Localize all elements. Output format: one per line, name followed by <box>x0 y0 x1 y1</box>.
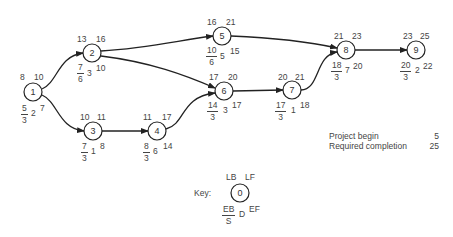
node-1-id: 1 <box>30 87 35 97</box>
node-7-ef: 18 <box>300 101 309 110</box>
node-8-d: 7 <box>345 66 350 75</box>
edge-6-7 <box>233 90 283 91</box>
key-lf: LF <box>245 173 255 182</box>
edge-2-5 <box>101 36 213 51</box>
project-info: Project begin 5 Required completion 25 <box>329 131 439 151</box>
key-title: Key: <box>194 189 211 198</box>
node-5-id: 5 <box>219 31 224 41</box>
node-3-lf: 11 <box>97 113 106 122</box>
node-5-eb-s: 106 <box>206 46 217 66</box>
node-4-lb: 11 <box>143 113 152 122</box>
node-9-lf: 25 <box>420 32 429 41</box>
edge-5-8 <box>231 36 337 48</box>
node-9-lb: 23 <box>403 32 412 41</box>
project-begin-label: Project begin <box>329 131 379 141</box>
node-7-lf: 21 <box>295 73 304 82</box>
node-4-ef: 14 <box>163 142 172 151</box>
node-5-lb: 16 <box>207 18 216 27</box>
required-completion-value: 25 <box>430 141 439 151</box>
node-3-eb-s: 73 <box>81 142 88 162</box>
node-2-id: 2 <box>89 48 94 58</box>
node-2-d: 3 <box>87 69 92 78</box>
node-4-eb-s: 83 <box>143 142 150 162</box>
node-8-ef: 20 <box>353 62 362 71</box>
network-diagram: 1 2 3 4 5 6 7 8 9 0 <box>0 0 453 237</box>
node-1-d: 2 <box>31 109 36 118</box>
node-8-eb-s: 183 <box>331 61 342 81</box>
node-4-lf: 17 <box>162 113 171 122</box>
node-4-d: 6 <box>153 147 158 156</box>
node-4-id: 4 <box>154 126 159 136</box>
node-8-lb: 21 <box>334 32 343 41</box>
node-3-id: 3 <box>90 126 95 136</box>
node-6-ef: 17 <box>232 101 241 110</box>
node-2-eb-s: 76 <box>77 63 84 83</box>
edge-1-3 <box>42 95 84 131</box>
node-1-lf: 10 <box>34 73 43 82</box>
node-2-lb: 13 <box>77 35 86 44</box>
node-6-d: 3 <box>223 106 228 115</box>
key-ef: EF <box>249 205 260 214</box>
key-lb: LB <box>226 173 236 182</box>
key-eb-s: EBS <box>222 205 235 225</box>
node-1-lb: 8 <box>20 73 25 82</box>
node-6-eb-s: 143 <box>207 101 218 121</box>
edge-2-6 <box>101 56 215 88</box>
node-2-ef: 10 <box>96 64 105 73</box>
node-1-ef: 7 <box>40 104 45 113</box>
node-3-d: 1 <box>91 147 96 156</box>
node-7-eb-s: 173 <box>275 101 286 121</box>
node-1-eb-s: 53 <box>21 104 28 124</box>
key-d: D <box>239 210 245 219</box>
node-2-lf: 16 <box>96 35 105 44</box>
node-7-id: 7 <box>289 85 294 95</box>
node-3-ef: 8 <box>100 142 105 151</box>
node-9-ef: 22 <box>423 62 432 71</box>
project-begin-row: Project begin 5 <box>329 131 439 141</box>
node-6-lf: 20 <box>228 73 237 82</box>
required-completion-row: Required completion 25 <box>329 141 439 151</box>
node-7-d: 1 <box>291 106 296 115</box>
required-completion-label: Required completion <box>329 141 407 151</box>
node-8-id: 8 <box>343 45 348 55</box>
node-6-id: 6 <box>221 86 226 96</box>
node-9-eb-s: 203 <box>400 61 411 81</box>
key-node-id: 0 <box>237 188 242 198</box>
node-9-id: 9 <box>413 45 418 55</box>
node-9-d: 2 <box>415 66 420 75</box>
node-8-lf: 23 <box>352 32 361 41</box>
node-5-d: 5 <box>220 52 225 61</box>
node-7-lb: 20 <box>278 73 287 82</box>
node-5-lf: 21 <box>226 18 235 27</box>
node-5-ef: 15 <box>230 47 239 56</box>
node-3-lb: 10 <box>80 113 89 122</box>
project-begin-value: 5 <box>434 131 439 141</box>
node-6-lb: 17 <box>209 73 218 82</box>
